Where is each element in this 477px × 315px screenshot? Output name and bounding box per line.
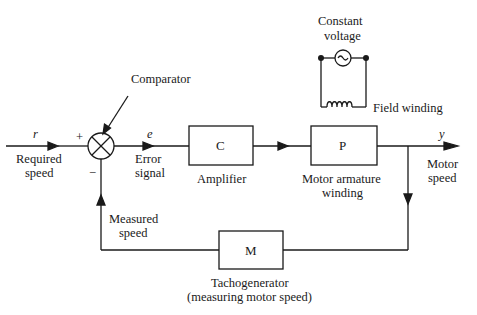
motor-armature-label-2: winding [322,186,363,200]
y-symbol: y [439,127,445,141]
tachogenerator-label-2: (measuring motor speed) [187,290,312,304]
inductor-coil-icon [327,102,352,107]
motor-speed-label-1: Motor [427,157,458,171]
required-speed-label-2: speed [25,166,53,180]
measured-speed-label-1: Measured [109,212,158,226]
error-signal-label-1: Error [135,152,161,166]
diagram-canvas [0,0,477,315]
amplifier-label: Amplifier [197,172,246,186]
plant-block-label: P [339,138,346,154]
motor-speed-label-2: speed [428,171,456,185]
plus-sign: + [76,130,83,144]
required-speed-label-1: Required [16,152,62,166]
tachogenerator-block-label: M [245,243,257,259]
amplifier-output-arrow-icon [278,142,288,150]
minus-sign: − [89,166,96,180]
field-winding-circuit [321,50,366,107]
motor-armature-label-1: Motor armature [302,172,381,186]
input-arrow-icon [48,142,58,150]
feedback-up-arrow-icon [97,195,105,205]
output-arrow-icon [444,142,458,150]
feedback-down-arrow-icon [404,194,412,204]
comparator-pointer [107,96,128,129]
field-winding-label: Field winding [373,101,443,115]
e-symbol: e [147,127,153,141]
error-signal-label-2: signal [135,166,165,180]
error-arrow-icon [143,142,153,150]
measured-speed-label-2: speed [119,226,147,240]
tachogenerator-label-1: Tachogenerator [211,276,289,290]
r-symbol: r [33,127,38,141]
comparator-label: Comparator [131,72,191,86]
constant-voltage-label-1: Constant [318,14,362,28]
amplifier-block-label: C [216,138,225,154]
constant-voltage-label-2: voltage [324,29,361,43]
